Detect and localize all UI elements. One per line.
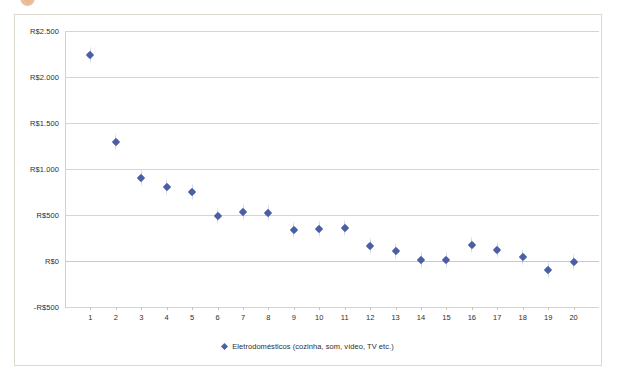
x-tick-mark: [90, 307, 91, 310]
chart-plot-wrapper: R$2.500R$2.000R$1.500R$1.000R$500R$0-R$5…: [15, 15, 601, 365]
diamond-marker-icon: [264, 209, 272, 217]
x-tick-label: 17: [493, 313, 501, 322]
x-tick-label: 1: [88, 313, 92, 322]
x-tick-label: 14: [417, 313, 425, 322]
x-tick-mark: [192, 307, 193, 310]
diamond-marker-icon: [213, 212, 221, 220]
x-tick-mark: [472, 307, 473, 310]
x-tick-label: 8: [266, 313, 270, 322]
scan-artifact-smudge: [20, 0, 35, 6]
diamond-marker-icon: [221, 343, 228, 350]
y-tick-label: R$1.500: [30, 119, 59, 128]
y-tick-label: R$0: [45, 257, 59, 266]
diamond-marker-icon: [162, 183, 170, 191]
x-tick-label: 7: [241, 313, 245, 322]
diamond-marker-icon: [417, 256, 425, 264]
y-tick-label: R$1.000: [30, 165, 59, 174]
x-tick-mark: [523, 307, 524, 310]
x-tick-label: 13: [391, 313, 399, 322]
x-tick-mark: [446, 307, 447, 310]
diamond-marker-icon: [493, 246, 501, 254]
chart-legend: Eletrodomésticos (cozinha, som, vídeo, T…: [15, 342, 601, 351]
x-tick-label: 6: [215, 313, 219, 322]
gridline: [65, 261, 599, 262]
x-tick-mark: [141, 307, 142, 310]
x-tick-label: 3: [139, 313, 143, 322]
x-tick-mark: [167, 307, 168, 310]
diamond-marker-icon: [569, 258, 577, 266]
x-tick-mark: [319, 307, 320, 310]
x-tick-label: 2: [114, 313, 118, 322]
x-tick-mark: [243, 307, 244, 310]
x-tick-label: 5: [190, 313, 194, 322]
diamond-marker-icon: [315, 225, 323, 233]
x-tick-mark: [574, 307, 575, 310]
gridline: [65, 77, 599, 78]
diamond-marker-icon: [188, 188, 196, 196]
diamond-marker-icon: [391, 247, 399, 255]
x-axis-tick-marks: [65, 307, 599, 311]
y-tick-label: R$2.500: [30, 27, 59, 36]
x-tick-label: 10: [315, 313, 323, 322]
x-tick-label: 12: [366, 313, 374, 322]
x-tick-mark: [268, 307, 269, 310]
x-tick-label: 9: [292, 313, 296, 322]
x-tick-label: 15: [442, 313, 450, 322]
x-tick-mark: [218, 307, 219, 310]
y-tick-label: R$2.000: [30, 73, 59, 82]
gridline: [65, 169, 599, 170]
diamond-marker-icon: [86, 51, 94, 59]
x-tick-mark: [396, 307, 397, 310]
diamond-marker-icon: [468, 241, 476, 249]
x-tick-label: 19: [544, 313, 552, 322]
diamond-marker-icon: [112, 138, 120, 146]
y-tick-label: -R$500: [34, 303, 59, 312]
x-tick-label: 20: [569, 313, 577, 322]
y-tick-label: R$500: [36, 211, 59, 220]
x-tick-label: 18: [519, 313, 527, 322]
x-tick-label: 11: [341, 313, 349, 322]
gridline: [65, 123, 599, 124]
plot-area: [65, 31, 599, 307]
x-axis-labels: 1234567891011121314151617181920: [65, 313, 599, 327]
x-tick-mark: [548, 307, 549, 310]
diamond-marker-icon: [442, 256, 450, 264]
legend-label: Eletrodomésticos (cozinha, som, vídeo, T…: [232, 342, 393, 351]
x-tick-mark: [421, 307, 422, 310]
x-tick-mark: [345, 307, 346, 310]
x-tick-label: 16: [468, 313, 476, 322]
x-tick-mark: [497, 307, 498, 310]
diamond-marker-icon: [137, 174, 145, 182]
x-tick-mark: [370, 307, 371, 310]
diamond-marker-icon: [544, 265, 552, 273]
x-tick-label: 4: [165, 313, 169, 322]
y-axis-labels: R$2.500R$2.000R$1.500R$1.000R$500R$0-R$5…: [15, 31, 59, 307]
x-tick-mark: [116, 307, 117, 310]
x-tick-mark: [294, 307, 295, 310]
diamond-marker-icon: [340, 224, 348, 232]
gridline: [65, 215, 599, 216]
diamond-marker-icon: [290, 225, 298, 233]
chart-frame: R$2.500R$2.000R$1.500R$1.000R$500R$0-R$5…: [14, 14, 602, 366]
diamond-marker-icon: [366, 242, 374, 250]
gridline: [65, 31, 599, 32]
